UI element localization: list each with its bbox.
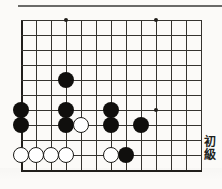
board-gridline-horizontal — [21, 35, 202, 36]
black-stone[interactable] — [13, 102, 29, 118]
black-stone[interactable] — [58, 102, 74, 118]
white-stone[interactable] — [58, 147, 74, 163]
white-stone[interactable] — [13, 147, 29, 163]
board-gridline-horizontal — [21, 50, 202, 51]
black-stone[interactable] — [133, 117, 149, 133]
level-label: 初 級 — [200, 136, 220, 162]
white-stone[interactable] — [73, 117, 89, 133]
white-stone[interactable] — [43, 147, 59, 163]
board-star-point — [154, 18, 158, 22]
board-gridline-horizontal — [21, 65, 202, 66]
level-label-char-2: 級 — [200, 149, 220, 162]
black-stone[interactable] — [13, 117, 29, 133]
board-star-point — [64, 18, 68, 22]
black-stone[interactable] — [58, 117, 74, 133]
white-stone[interactable] — [28, 147, 44, 163]
board-gridline-horizontal — [21, 140, 202, 141]
black-stone[interactable] — [118, 147, 134, 163]
go-board[interactable] — [0, 10, 200, 178]
page-canvas: 初 級 — [0, 0, 222, 189]
black-stone[interactable] — [58, 72, 74, 88]
board-star-point — [154, 108, 158, 112]
black-stone[interactable] — [103, 102, 119, 118]
top-horizontal-rule — [18, 5, 222, 7]
white-stone[interactable] — [103, 147, 119, 163]
board-gridline-horizontal — [21, 95, 202, 96]
black-stone[interactable] — [103, 117, 119, 133]
board-gridline-horizontal — [21, 80, 202, 81]
board-gridline-horizontal — [21, 170, 202, 172]
board-gridline-horizontal — [21, 20, 202, 21]
